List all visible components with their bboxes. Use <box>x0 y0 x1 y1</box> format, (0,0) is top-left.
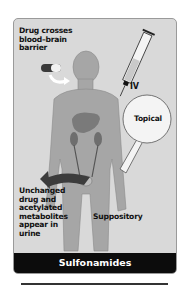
topical-bubble <box>120 95 171 173</box>
bbb-label: Drug crosses blood–brain barrier <box>19 27 72 53</box>
head-icon <box>73 51 99 83</box>
urine-label: Unchanged drug and acetylated metabolite… <box>19 187 68 239</box>
title-bar: Sulfonamides <box>14 253 176 273</box>
divider-line <box>21 283 168 285</box>
urine-line: urine <box>19 230 68 239</box>
diagram-card: Drug crosses blood–brain barrier IV Topi… <box>13 18 177 274</box>
suppository-label: Suppository <box>93 213 142 222</box>
bbb-line: barrier <box>19 44 72 53</box>
topical-label: Topical <box>134 115 162 124</box>
iv-label: IV <box>130 83 139 92</box>
pill-icon <box>41 64 70 85</box>
